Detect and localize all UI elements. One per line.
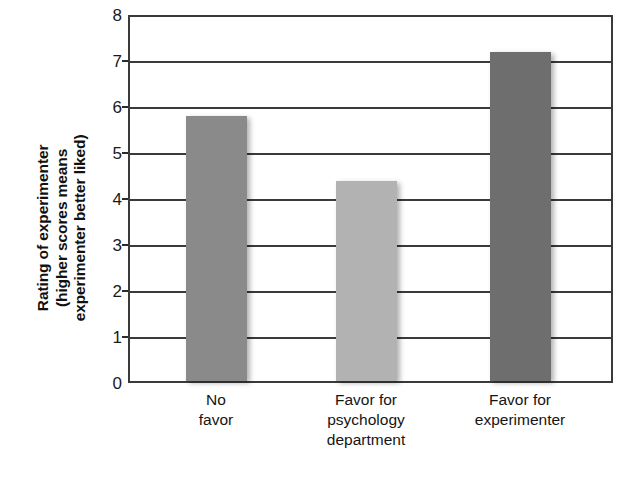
y-axis-title-line-3: experimenter better liked)	[71, 43, 90, 413]
gridline	[130, 61, 611, 63]
y-axis-tick-label: 0	[96, 375, 122, 392]
y-axis-tick-label: 1	[96, 329, 122, 346]
x-axis-category-label-line: psychology	[286, 410, 446, 430]
bar-chart: Rating of experimenter (higher scores me…	[0, 0, 630, 481]
gridline	[130, 245, 611, 247]
x-axis-category-label-line: Favor for	[286, 390, 446, 410]
gridline	[130, 291, 611, 293]
y-axis-tick-label: 4	[96, 191, 122, 208]
y-axis-title-line-1: Rating of experimenter	[34, 43, 53, 413]
x-axis-category-label-line: No	[136, 390, 296, 410]
x-axis-category-label-line: department	[286, 430, 446, 450]
y-axis-tick-label: 7	[96, 53, 122, 70]
x-axis-category-label-line: experimenter	[440, 410, 600, 430]
x-axis-category-labels: NofavorFavor forpsychologydepartmentFavo…	[128, 390, 613, 475]
gridline	[130, 337, 611, 339]
y-axis-tick-labels: 012345678	[96, 0, 122, 481]
x-axis-category-label: Favor forexperimenter	[440, 390, 600, 430]
y-axis-title-line-2: (higher scores means	[53, 43, 72, 413]
x-axis-category-label-line: favor	[136, 410, 296, 430]
gridline	[130, 153, 611, 155]
y-axis-tick-label: 6	[96, 99, 122, 116]
gridline	[130, 199, 611, 201]
gridline	[130, 107, 611, 109]
y-axis-tick-label: 5	[96, 145, 122, 162]
y-axis-tick-label: 3	[96, 237, 122, 254]
y-axis-tick-label: 2	[96, 283, 122, 300]
x-axis-category-label-line: Favor for	[440, 390, 600, 410]
y-axis-title: Rating of experimenter (higher scores me…	[34, 43, 90, 413]
plot-area	[128, 15, 613, 383]
x-axis-category-label: Favor forpsychologydepartment	[286, 390, 446, 450]
y-axis-tick-label: 8	[96, 7, 122, 24]
x-axis-category-label: Nofavor	[136, 390, 296, 430]
